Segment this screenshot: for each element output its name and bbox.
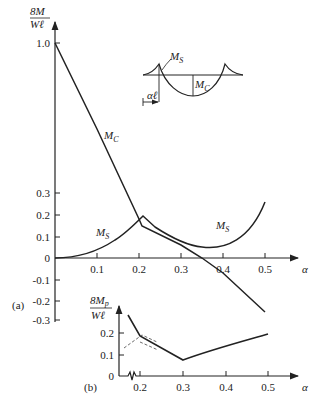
svg-text:0.1: 0.1 bbox=[90, 263, 104, 275]
svg-text:0: 0 bbox=[109, 370, 115, 382]
y-tick-labels-b: 0 0.1 0.2 bbox=[100, 327, 114, 382]
x-axis-label-b: α bbox=[302, 381, 308, 393]
y-axis-label-b: 8Mp Wℓ bbox=[90, 294, 112, 321]
mc-curve-label: MC bbox=[103, 129, 119, 144]
svg-text:0: 0 bbox=[45, 252, 51, 264]
x-axis-b bbox=[119, 372, 298, 380]
svg-text:Wℓ: Wℓ bbox=[91, 309, 105, 321]
svg-text:0.2: 0.2 bbox=[132, 263, 146, 275]
dashed-mc-curve bbox=[140, 342, 158, 350]
svg-text:MC: MC bbox=[194, 78, 210, 93]
svg-text:0.4: 0.4 bbox=[219, 381, 233, 393]
y-ticks-a bbox=[55, 43, 60, 320]
svg-text:0.3: 0.3 bbox=[174, 263, 188, 275]
svg-text:0.2: 0.2 bbox=[100, 327, 114, 339]
x-tick-labels-a: 0.1 0.2 0.3 0.4 0.5 bbox=[90, 263, 272, 275]
y-tick-labels-a: 1.0 0.3 0.2 0.1 0 -0.1 -0.2 -0.3 bbox=[33, 37, 51, 326]
svg-text:0.2: 0.2 bbox=[36, 209, 50, 221]
y-ticks-b bbox=[119, 333, 124, 355]
ms-left-curve-label: MS bbox=[95, 226, 109, 241]
x-tick-labels-b: 0.2 0.3 0.4 0.5 bbox=[133, 381, 275, 393]
x-ticks-a bbox=[97, 253, 265, 258]
svg-text:MS: MS bbox=[95, 226, 109, 241]
svg-text:-0.3: -0.3 bbox=[33, 314, 51, 326]
svg-text:0.3: 0.3 bbox=[36, 187, 50, 199]
mp-curve bbox=[128, 315, 268, 360]
svg-text:0.5: 0.5 bbox=[261, 381, 275, 393]
ms-curve bbox=[55, 202, 265, 258]
svg-text:0.5: 0.5 bbox=[258, 263, 272, 275]
svg-text:MC: MC bbox=[103, 129, 119, 144]
x-ticks-b bbox=[140, 371, 268, 376]
svg-text:0.3: 0.3 bbox=[176, 381, 190, 393]
moment-diagram-figure: 8M Wℓ 1.0 0.3 0.2 0.1 0 -0.1 -0.2 -0.3 bbox=[0, 0, 318, 405]
panel-a-label: (a) bbox=[12, 299, 25, 312]
mc-curve bbox=[55, 43, 265, 312]
svg-text:0.1: 0.1 bbox=[36, 231, 50, 243]
svg-text:8Mp: 8Mp bbox=[90, 294, 109, 308]
svg-text:-0.2: -0.2 bbox=[33, 295, 50, 307]
svg-text:1.0: 1.0 bbox=[36, 37, 50, 49]
inset-beam-diagram: MS MC αℓ bbox=[143, 50, 243, 106]
svg-text:MS: MS bbox=[169, 50, 183, 65]
x-axis-label-a: α bbox=[302, 263, 308, 275]
svg-text:8M: 8M bbox=[30, 5, 46, 17]
panel-a: 8M Wℓ 1.0 0.3 0.2 0.1 0 -0.1 -0.2 -0.3 bbox=[12, 5, 308, 326]
panel-b-label: (b) bbox=[84, 381, 97, 394]
ms-right-curve-label: MS bbox=[215, 219, 229, 234]
panel-b: 8Mp Wℓ 0 0.1 0.2 0.2 0.3 0.4 0.5 α bbox=[84, 294, 308, 394]
svg-text:MS: MS bbox=[215, 219, 229, 234]
svg-text:0.2: 0.2 bbox=[133, 381, 147, 393]
svg-text:-0.1: -0.1 bbox=[33, 274, 50, 286]
svg-text:αℓ: αℓ bbox=[147, 89, 158, 101]
svg-text:Wℓ: Wℓ bbox=[30, 18, 44, 30]
y-axis-label-a: 8M Wℓ bbox=[30, 5, 50, 30]
svg-text:0.1: 0.1 bbox=[100, 349, 114, 361]
